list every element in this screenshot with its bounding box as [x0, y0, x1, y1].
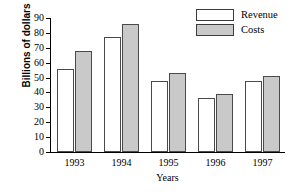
- bar-costs-1994: [122, 24, 139, 152]
- y-tick-mark: [46, 63, 50, 64]
- legend-item-revenue[interactable]: Revenue: [196, 8, 291, 22]
- y-tick-mark: [46, 18, 50, 19]
- bar-group: [104, 18, 139, 152]
- bar-revenue-1997: [245, 81, 262, 152]
- y-tick-label: 90: [34, 13, 44, 23]
- y-axis-title: Billions of dollars: [21, 0, 32, 116]
- y-tick-mark: [46, 107, 50, 108]
- x-tick-label: 1994: [112, 158, 132, 168]
- chart-legend: RevenueCosts: [196, 8, 291, 38]
- legend-item-costs[interactable]: Costs: [196, 23, 291, 37]
- bar-revenue-1995: [151, 81, 168, 152]
- x-tick-label: 1997: [253, 158, 273, 168]
- legend-label: Costs: [241, 25, 264, 36]
- y-tick-mark: [46, 92, 50, 93]
- y-tick-label: 80: [34, 28, 44, 38]
- x-tick-label: 1996: [206, 158, 226, 168]
- y-tick-label: 10: [34, 132, 44, 142]
- bar-costs-1996: [216, 94, 233, 152]
- y-tick-mark: [46, 137, 50, 138]
- y-tick-label: 60: [34, 58, 44, 68]
- legend-swatch-revenue: [196, 9, 234, 21]
- legend-label: Revenue: [241, 10, 278, 21]
- bar-group: [198, 18, 233, 152]
- bar-costs-1993: [75, 51, 92, 152]
- bar-costs-1995: [169, 73, 186, 152]
- bar-group: [57, 18, 92, 152]
- y-tick-label: 20: [34, 117, 44, 127]
- bar-group: [151, 18, 186, 152]
- y-tick-label: 70: [34, 43, 44, 53]
- bar-chart-figure: Billions of dollars 9080706050403020100 …: [0, 0, 295, 194]
- bar-costs-1997: [263, 76, 280, 152]
- y-tick-mark: [46, 48, 50, 49]
- y-tick-label: 50: [34, 73, 44, 83]
- legend-swatch-costs: [196, 24, 234, 36]
- y-tick-mark: [46, 33, 50, 34]
- y-tick-mark: [46, 122, 50, 123]
- y-tick-mark: [46, 152, 50, 153]
- x-axis-title: Years: [50, 172, 285, 183]
- bar-revenue-1993: [57, 69, 74, 152]
- y-axis-line: [50, 18, 51, 153]
- plot-area: 9080706050403020100 19931994199519961997: [50, 18, 285, 152]
- x-axis-line: [50, 152, 285, 153]
- bar-group: [245, 18, 280, 152]
- x-tick-label: 1993: [65, 158, 85, 168]
- bar-revenue-1996: [198, 98, 215, 152]
- y-tick-mark: [46, 78, 50, 79]
- y-tick-label: 30: [34, 102, 44, 112]
- x-tick-label: 1995: [159, 158, 179, 168]
- bar-revenue-1994: [104, 37, 121, 152]
- y-tick-label: 0: [39, 147, 44, 157]
- y-tick-label: 40: [34, 87, 44, 97]
